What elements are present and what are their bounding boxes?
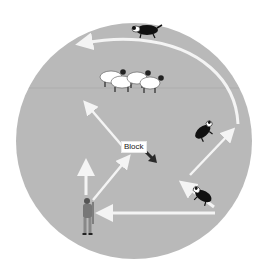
herding-diagram [0,0,268,279]
block-label: Block [121,141,147,153]
